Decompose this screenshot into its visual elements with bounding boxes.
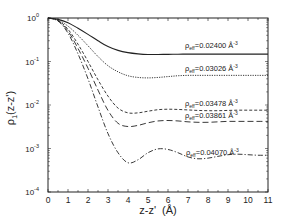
x-axis-label: z-z' (Å) (139, 204, 177, 216)
y-tick-labels: 10010-110-210-310-4 (25, 12, 39, 197)
series-label-5: ρeff=0.04070 Å-3 (186, 147, 239, 159)
x-tick-label: 7 (186, 195, 191, 205)
y-tick-label: 10-4 (25, 186, 39, 197)
chart-container: 10010-110-210-310-4 01234567891011 ρeff=… (0, 0, 286, 224)
series-curve-2 (48, 18, 268, 78)
x-tick-label: 10 (243, 195, 253, 205)
x-tick-label: 3 (106, 195, 111, 205)
x-tick-label: 4 (126, 195, 131, 205)
y-tick-label: 10-3 (25, 143, 39, 154)
series-label-2: ρeff=0.03026 Å-3 (185, 63, 238, 75)
series-label-1: ρeff=0.02400 Å-3 (185, 40, 238, 52)
y-tick-label: 100 (27, 12, 39, 23)
x-tick-label: 2 (86, 195, 91, 205)
series-labels: ρeff=0.02400 Å-3ρeff=0.03026 Å-3ρeff=0.0… (185, 40, 239, 159)
x-tick-label: 0 (46, 195, 51, 205)
y-tick-label: 10-2 (25, 99, 39, 110)
x-tick-label: 1 (66, 195, 71, 205)
y-axis-label: ρ1(z-z') (4, 91, 18, 125)
series-label-4: ρeff=0.03861 Å-3 (185, 110, 238, 122)
y-tick-label: 10-1 (25, 56, 39, 67)
x-tick-label: 11 (264, 195, 273, 205)
series-label-3: ρeff=0.03478 Å-3 (185, 98, 238, 110)
x-tick-label: 9 (226, 195, 231, 205)
y-axis-label-arg: (z-z') (4, 91, 16, 115)
x-tick-label: 8 (206, 195, 211, 205)
